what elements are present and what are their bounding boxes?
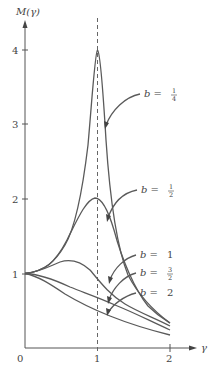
svg-text:3: 3: [168, 266, 172, 274]
y-tick-label-4: 4: [12, 45, 18, 56]
y-axis-title: M(γ): [15, 6, 40, 17]
svg-text:b =: b =: [141, 184, 159, 195]
label-b-two: b = 2: [140, 287, 173, 298]
svg-text:b =: b =: [144, 88, 162, 99]
label-b-one: b = 1: [140, 249, 173, 260]
svg-text:2: 2: [167, 287, 173, 298]
arrowhead-b-one-icon: [108, 276, 113, 284]
y-tick-label-2: 2: [12, 194, 18, 205]
y-tick-label-1: 1: [12, 269, 18, 280]
origin-label: 0: [17, 353, 23, 364]
y-tick-label-3: 3: [12, 119, 18, 130]
svg-text:b =: b =: [140, 249, 158, 260]
svg-text:b =: b =: [140, 287, 158, 298]
annotation-arrow-b-two: [108, 293, 136, 313]
svg-text:4: 4: [172, 95, 176, 103]
x-tick-label-2: 2: [166, 353, 172, 364]
x-axis-arrow-icon: [189, 346, 197, 351]
annotation-arrow-b-quarter: [106, 94, 140, 125]
svg-text:1: 1: [172, 87, 176, 95]
svg-text:b =: b =: [140, 267, 158, 278]
svg-text:1: 1: [169, 183, 173, 191]
label-b-half: b = 1 2: [141, 183, 174, 199]
resonance-chart: 1 2 3 4 0 1 2 M(γ) γ b = 1 4 b = 1 2 b =…: [0, 0, 217, 377]
x-tick-label-1: 1: [94, 353, 100, 364]
y-axis-arrow-icon: [23, 20, 28, 28]
x-axis-title: γ: [201, 342, 207, 353]
svg-text:2: 2: [169, 191, 173, 199]
label-b-quarter: b = 1 4: [144, 87, 177, 103]
label-b-threehalves: b = 3 2: [140, 266, 173, 282]
svg-text:2: 2: [168, 274, 172, 282]
svg-text:1: 1: [167, 249, 173, 260]
